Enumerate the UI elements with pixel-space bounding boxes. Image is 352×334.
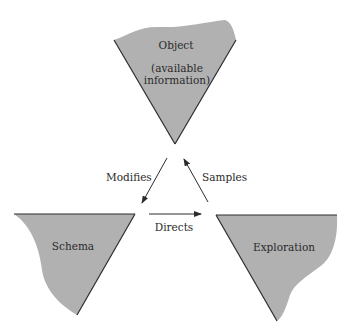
object-title: Object <box>159 39 195 51</box>
exploration-node: Exploration <box>216 215 337 321</box>
samples-edge: Samples <box>184 159 247 202</box>
samples-label: Samples <box>202 171 247 183</box>
perceptual-cycle-diagram: Object (available information) Schema Ex… <box>0 0 352 334</box>
object-subtitle-line2: information) <box>144 74 210 86</box>
modifies-label: Modifies <box>106 171 152 183</box>
schema-node: Schema <box>14 214 135 315</box>
schema-title: Schema <box>52 240 94 252</box>
modifies-edge: Modifies <box>106 158 167 203</box>
object-node: Object (available information) <box>114 20 236 144</box>
directs-label: Directs <box>155 221 194 233</box>
exploration-title: Exploration <box>253 241 315 253</box>
directs-edge: Directs <box>149 214 201 233</box>
exploration-shape <box>216 215 337 321</box>
schema-shape <box>14 214 135 315</box>
object-subtitle-line1: (available <box>151 62 203 74</box>
